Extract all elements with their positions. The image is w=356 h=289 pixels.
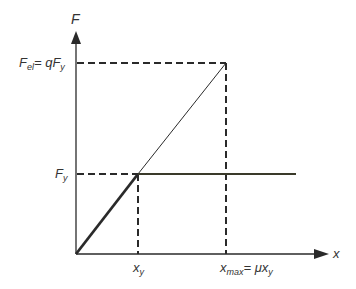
x-axis-label: x (332, 246, 340, 261)
f-el-label: Fel= qFy (19, 55, 65, 72)
elastic-branch-line (76, 174, 138, 254)
elastic-extension-line (138, 63, 226, 174)
x-y-label: xy (132, 260, 145, 277)
force-displacement-diagram: F x Fel= qFy Fy xy xmax= μxy (0, 0, 356, 289)
x-max-label: xmax= μxy (219, 260, 273, 277)
f-y-label: Fy (55, 166, 68, 183)
y-axis-label: F (71, 11, 81, 27)
x-axis-arrow-icon (314, 249, 329, 259)
y-axis-arrow-icon (71, 31, 81, 44)
